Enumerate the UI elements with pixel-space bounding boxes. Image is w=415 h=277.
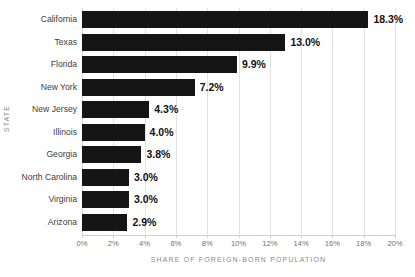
bar-value-label: 4.3% xyxy=(154,101,178,118)
bar-value-label: 13.0% xyxy=(290,34,320,51)
gridline xyxy=(364,8,365,235)
category-label: Virginia xyxy=(14,191,77,208)
x-axis-tick xyxy=(145,235,146,238)
x-axis-tick xyxy=(207,235,208,238)
x-axis-tick xyxy=(332,235,333,238)
y-axis-title-label: STATE xyxy=(4,105,11,132)
bar[interactable] xyxy=(82,214,127,231)
x-axis-tick-label: 2% xyxy=(108,239,119,248)
x-axis-tick-label: 16% xyxy=(325,239,340,248)
x-axis-tick xyxy=(239,235,240,238)
bar-value-label: 3.0% xyxy=(134,169,158,186)
bar[interactable] xyxy=(82,101,149,118)
category-label: Illinois xyxy=(14,124,77,141)
bar[interactable] xyxy=(82,79,195,96)
bar-value-label: 2.9% xyxy=(132,214,156,231)
x-axis-tick-label: 20% xyxy=(387,239,402,248)
x-axis-tick xyxy=(270,235,271,238)
bar-value-label: 3.8% xyxy=(146,146,170,163)
gridline xyxy=(332,8,333,235)
x-axis-tick xyxy=(364,235,365,238)
category-label: Texas xyxy=(14,34,77,51)
x-axis-tick xyxy=(176,235,177,238)
bar-value-label: 3.0% xyxy=(134,191,158,208)
bar[interactable] xyxy=(82,56,237,73)
bar[interactable] xyxy=(82,169,129,186)
category-label: Georgia xyxy=(14,146,77,163)
x-axis-tick-label: 6% xyxy=(170,239,181,248)
category-label: New York xyxy=(14,79,77,96)
bar[interactable] xyxy=(82,11,368,28)
bar-chart: STATE CaliforniaTexasFloridaNew YorkNew … xyxy=(0,0,415,277)
bar-value-label: 4.0% xyxy=(150,124,174,141)
x-axis-tick xyxy=(113,235,114,238)
x-axis-tick-labels: 0%2%4%6%8%10%12%14%16%18%20% xyxy=(82,239,395,251)
category-label: North Carolina xyxy=(14,169,77,186)
bar[interactable] xyxy=(82,191,129,208)
bar[interactable] xyxy=(82,34,285,51)
x-axis-tick-label: 8% xyxy=(202,239,213,248)
bar-value-label: 9.9% xyxy=(242,56,266,73)
category-label: New Jersey xyxy=(14,101,77,118)
gridline xyxy=(395,8,396,235)
x-axis-tick-label: 0% xyxy=(77,239,88,248)
category-label: Arizona xyxy=(14,214,77,231)
x-axis-title: SHARE OF FOREIGN-BORN POPULATION xyxy=(82,256,395,263)
y-axis-title: STATE xyxy=(0,0,14,237)
category-label: Florida xyxy=(14,56,77,73)
x-axis-tick-label: 10% xyxy=(231,239,246,248)
category-label: California xyxy=(14,11,77,28)
plot-area: 18.3%13.0%9.9%7.2%4.3%4.0%3.8%3.0%3.0%2.… xyxy=(82,8,395,235)
x-axis-tick-label: 4% xyxy=(139,239,150,248)
bar[interactable] xyxy=(82,146,141,163)
x-axis-tick xyxy=(301,235,302,238)
x-axis-tick xyxy=(395,235,396,238)
bar-value-label: 18.3% xyxy=(373,11,403,28)
bar-value-label: 7.2% xyxy=(200,79,224,96)
x-axis-tick xyxy=(82,235,83,238)
x-axis-tick-label: 18% xyxy=(356,239,371,248)
x-axis-tick-label: 12% xyxy=(262,239,277,248)
x-axis-tick-label: 14% xyxy=(293,239,308,248)
bar[interactable] xyxy=(82,124,145,141)
category-axis-labels: CaliforniaTexasFloridaNew YorkNew Jersey… xyxy=(14,11,77,228)
